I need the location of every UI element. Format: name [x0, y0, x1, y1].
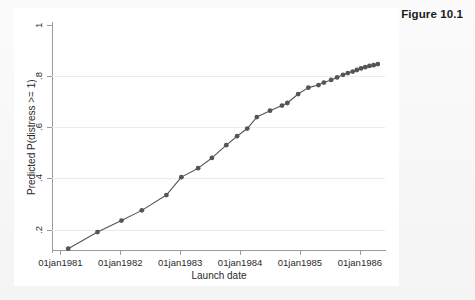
figure-screenshot: Figure 10.1 1.8.6.4.2 01jan198101jan1982… [0, 0, 475, 300]
data-point-marker [119, 218, 124, 223]
data-point-marker [235, 134, 240, 139]
x-axis-tick-label: 01jan1984 [218, 257, 262, 268]
x-axis-tick [180, 250, 181, 255]
x-axis-tick [60, 250, 61, 255]
data-point-marker [335, 75, 340, 80]
data-point-marker [363, 65, 368, 70]
x-axis-tick-label: 01jan1983 [158, 257, 202, 268]
x-axis-tick-label: 01jan1982 [98, 257, 142, 268]
x-axis-title: Launch date [52, 270, 386, 281]
data-point-marker [210, 156, 215, 161]
data-point-marker [196, 166, 201, 171]
x-axis-tick [240, 250, 241, 255]
data-point-marker [306, 85, 311, 90]
series-polyline [68, 64, 378, 249]
data-point-marker [66, 246, 71, 251]
data-point-marker [179, 175, 184, 180]
data-point-marker [354, 68, 359, 73]
x-axis-tick-label: 01jan1981 [38, 257, 82, 268]
data-point-marker [371, 63, 376, 68]
data-point-marker [341, 72, 346, 77]
x-axis-tick-label: 01jan1985 [278, 257, 322, 268]
data-point-marker [285, 101, 290, 106]
data-point-marker [164, 193, 169, 198]
data-point-marker [316, 83, 321, 88]
data-point-marker [367, 64, 372, 69]
data-point-marker [280, 103, 285, 108]
data-point-marker [322, 80, 327, 85]
data-point-marker [245, 126, 250, 131]
data-point-marker [268, 108, 273, 113]
data-point-marker [359, 66, 364, 71]
data-point-marker [329, 78, 334, 83]
data-point-marker [296, 92, 301, 97]
y-axis-title: Predicted P(distress >= 1) [24, 25, 38, 250]
x-axis-line [52, 250, 386, 251]
data-point-marker [254, 115, 259, 120]
x-axis-tick [300, 250, 301, 255]
data-series-line [52, 25, 385, 250]
x-axis-tick [120, 250, 121, 255]
data-point-marker [350, 69, 355, 74]
figure-title: Figure 10.1 [401, 8, 463, 20]
data-point-marker [139, 208, 144, 213]
x-axis-tick-label: 01jan1986 [338, 257, 382, 268]
data-point-marker [95, 230, 100, 235]
data-point-marker [375, 62, 380, 67]
data-point-marker [224, 143, 229, 148]
data-point-marker [345, 71, 350, 76]
x-axis-tick [360, 250, 361, 255]
plot-area [52, 25, 385, 250]
